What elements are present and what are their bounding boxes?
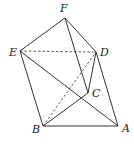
vertex-label-B: B xyxy=(31,123,40,136)
edge-CB xyxy=(43,93,88,126)
edge-ED xyxy=(20,51,96,52)
geometry-figure: A B C D E F xyxy=(0,0,134,145)
edge-EA xyxy=(20,51,118,126)
edge-FD xyxy=(65,18,96,52)
vertex-label-C: C xyxy=(92,87,101,100)
vertex-label-A: A xyxy=(121,122,130,135)
edge-EB xyxy=(20,51,43,126)
vertex-label-E: E xyxy=(8,46,17,59)
vertex-label-D: D xyxy=(99,46,109,59)
edge-FE xyxy=(20,18,65,51)
vertex-label-F: F xyxy=(59,2,68,15)
edge-FC xyxy=(65,18,88,93)
edge-BD xyxy=(43,52,96,126)
solid-edges xyxy=(20,18,118,126)
